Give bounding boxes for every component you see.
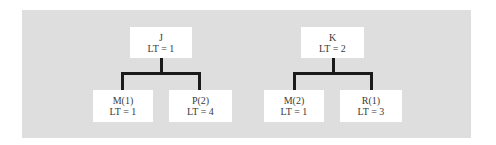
- node-name: R(1): [362, 95, 380, 106]
- node-name: J: [159, 32, 163, 43]
- node-name: P(2): [192, 95, 209, 106]
- tree1-bar: [121, 72, 201, 75]
- tree2-child-node: M(2) LT = 1: [264, 90, 324, 122]
- tree1-root-node: J LT = 1: [130, 27, 192, 58]
- tree2-child-node: R(1) LT = 3: [340, 90, 402, 122]
- diagram-panel: [22, 10, 471, 138]
- tree2-bar: [293, 72, 373, 75]
- node-lt: LT = 2: [319, 43, 346, 54]
- tree2-root-node: K LT = 2: [301, 27, 364, 58]
- node-name: M(2): [284, 95, 305, 106]
- tree1-right-drop: [198, 72, 201, 90]
- node-lt: LT = 1: [110, 106, 137, 117]
- node-lt: LT = 4: [187, 106, 214, 117]
- tree1-child-node: P(2) LT = 4: [169, 90, 232, 122]
- tree2-left-drop: [293, 72, 296, 90]
- node-name: M(1): [113, 95, 134, 106]
- node-lt: LT = 1: [281, 106, 308, 117]
- node-lt: LT = 3: [358, 106, 385, 117]
- node-lt: LT = 1: [148, 43, 175, 54]
- tree2-right-drop: [370, 72, 373, 90]
- tree1-left-drop: [121, 72, 124, 90]
- tree1-child-node: M(1) LT = 1: [93, 90, 153, 122]
- node-name: K: [329, 32, 336, 43]
